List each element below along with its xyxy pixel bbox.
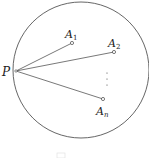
ellipsis-dot	[106, 78, 107, 79]
segment-P-An	[16, 71, 103, 99]
label-P: P	[1, 65, 11, 79]
diagram-canvas: P A1 A2 An	[0, 0, 149, 158]
label-An: An	[95, 105, 109, 119]
segment-P-A2	[16, 52, 114, 71]
ellipsis-dot	[106, 72, 107, 73]
point-An-marker	[101, 97, 104, 100]
label-A1: A1	[64, 28, 77, 42]
segment-P-A1	[16, 43, 72, 71]
caption-fragment	[57, 153, 65, 158]
label-A2: A2	[107, 37, 120, 51]
circle	[13, 2, 149, 138]
point-P-marker	[15, 70, 17, 72]
ellipsis-dot	[106, 84, 107, 85]
